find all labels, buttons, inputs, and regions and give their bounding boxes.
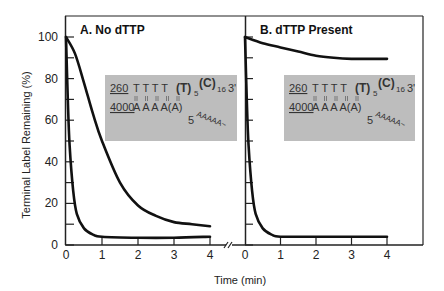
top-strand-sub: 5 [373, 89, 378, 98]
x-axis: 0123401234 [63, 237, 423, 262]
strand-label-4000: 4000 [110, 101, 134, 113]
x-tick-label: 2 [313, 248, 320, 262]
y-tick-label: 20 [45, 196, 59, 210]
y-tick-label: 40 [45, 155, 59, 169]
y-tick-label: 100 [38, 30, 58, 44]
y-tick-label: 0 [51, 238, 58, 252]
panel-a-title: A. No dTTP [80, 23, 145, 37]
x-tick-label: 1 [277, 248, 284, 262]
x-tick-label: 0 [242, 248, 249, 262]
strand-label-260: 260 [110, 82, 128, 94]
y-tick-label: 60 [45, 113, 59, 127]
top-strand-seq: T T T T [133, 82, 168, 94]
top-strand-sub: 5 [194, 89, 199, 98]
y-axis-title: Terminal Label Remaining (%) [20, 71, 32, 218]
sequence-inset: 260T T T T(T)5(C)163'4000A A A A(A)5AAAA… [105, 75, 237, 141]
x-tick-label: 4 [384, 248, 391, 262]
bottom-strand-start: 5 [367, 114, 373, 126]
top-strand-sub2: 16 [396, 85, 405, 94]
panel-b-title: B. dTTP Present [260, 23, 352, 37]
top-strand-T: (T) [176, 81, 191, 95]
curve-260 [245, 37, 387, 59]
top-strand-sub2: 16 [217, 85, 226, 94]
top-strand-C: (C) [378, 76, 395, 90]
strand-label-260: 260 [289, 82, 307, 94]
x-tick-label: 2 [135, 248, 142, 262]
sequence-inset: 260T T T T(T)5(C)163'4000A A A A(A)5AAAA… [284, 75, 415, 141]
bottom-strand-seq: A A A A(A) [312, 101, 362, 113]
axis-break-mark [228, 242, 232, 248]
top-strand-end: 3' [228, 82, 236, 94]
chart: 020406080100 0123401234 260T T T T(T)5(C… [0, 0, 444, 291]
x-axis-title: Time (min) [214, 274, 266, 286]
y-tick-label: 80 [45, 72, 59, 86]
x-tick-label: 0 [63, 248, 70, 262]
x-tick-label: 3 [171, 248, 178, 262]
x-tick-label: 4 [207, 248, 214, 262]
top-strand-end: 3' [407, 82, 415, 94]
x-tick-label: 1 [99, 248, 106, 262]
top-strand-T: (T) [355, 81, 370, 95]
bottom-strand-seq: A A A A(A) [133, 101, 183, 113]
strand-label-4000: 4000 [289, 101, 313, 113]
top-strand-seq: T T T T [312, 82, 347, 94]
bottom-strand-start: 5 [188, 114, 194, 126]
top-strand-C: (C) [199, 76, 216, 90]
insets: 260T T T T(T)5(C)163'4000A A A A(A)5AAAA… [105, 75, 415, 141]
x-tick-label: 3 [348, 248, 355, 262]
